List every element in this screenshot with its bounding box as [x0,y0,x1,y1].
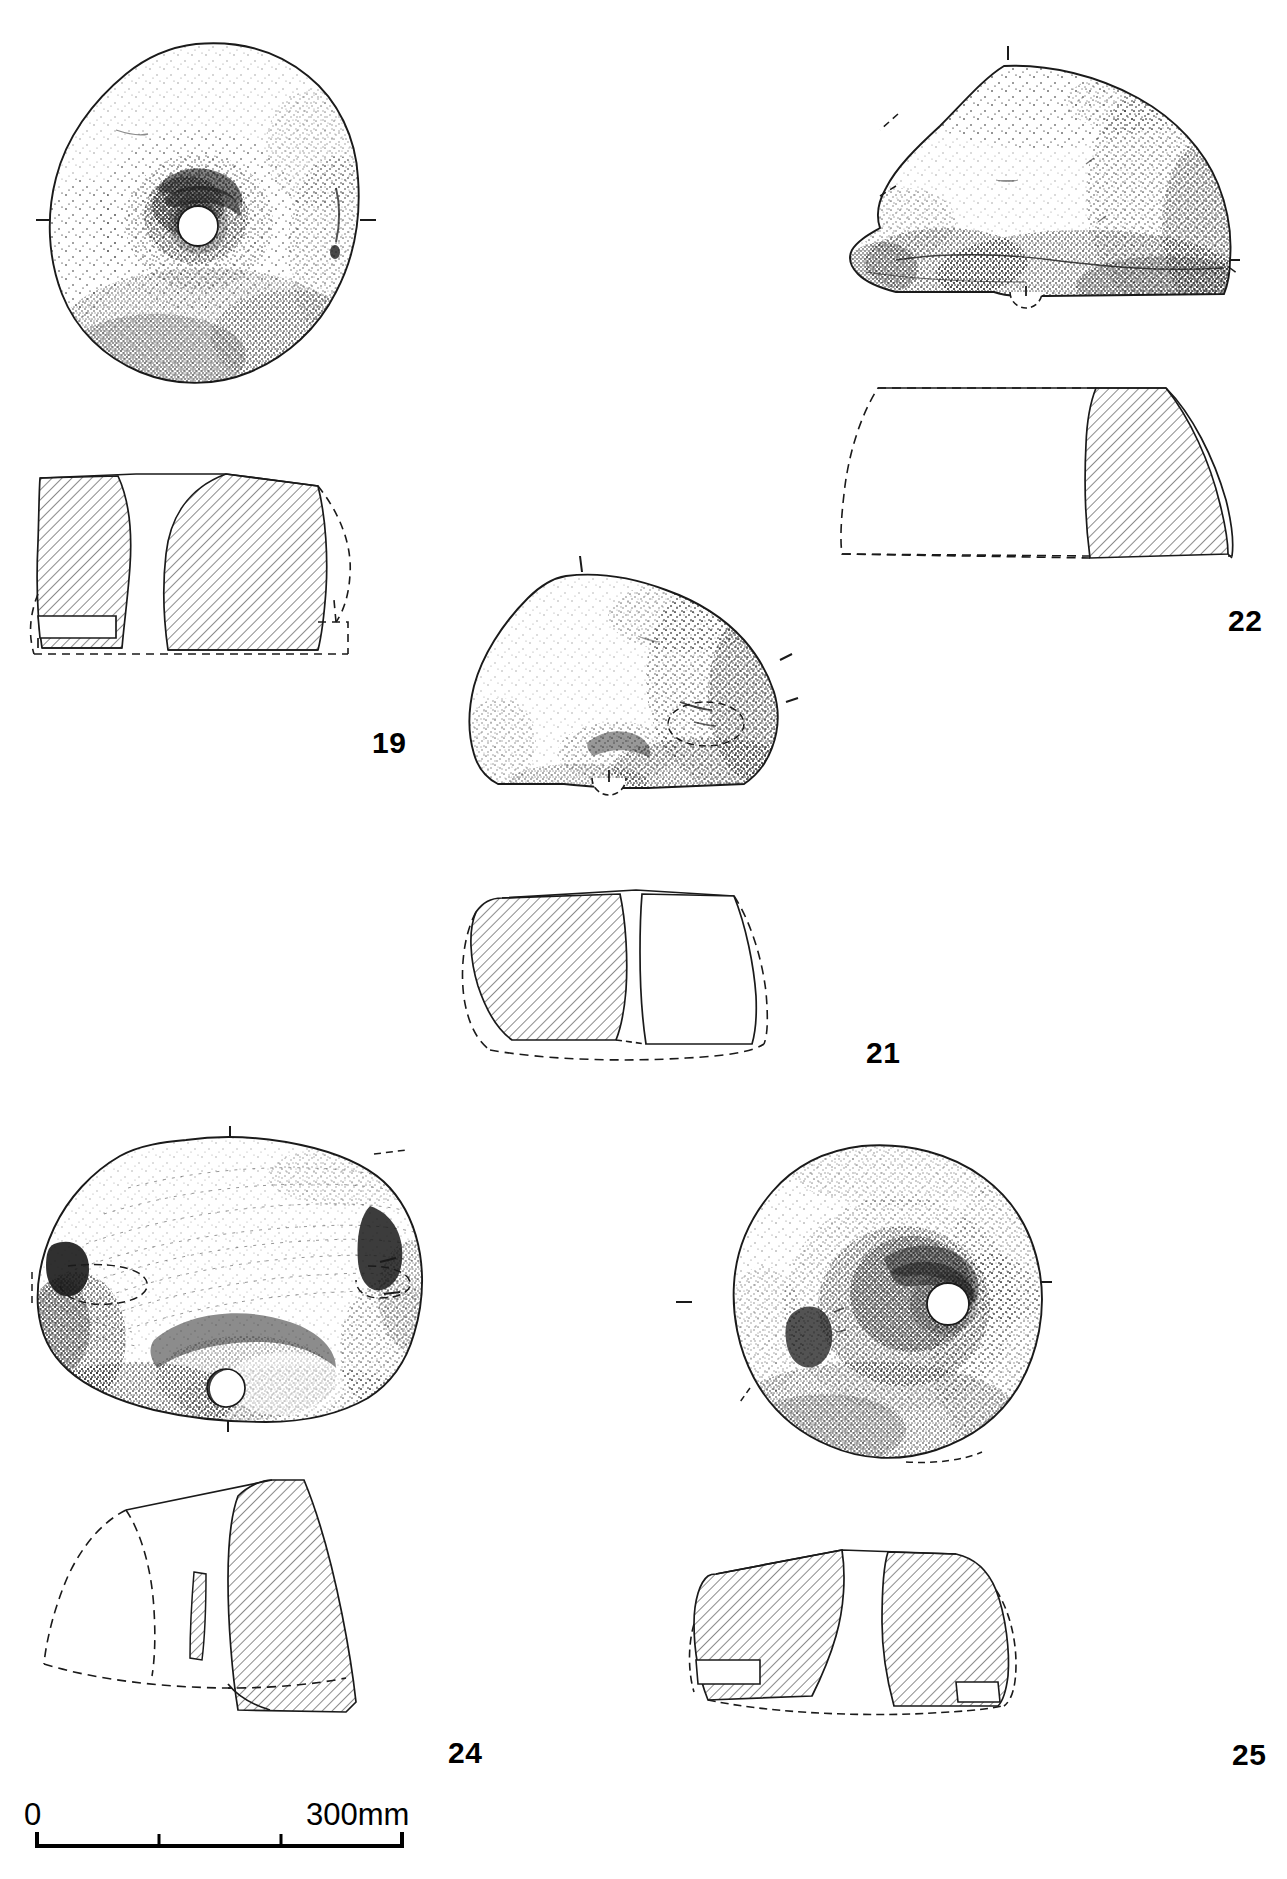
artefact-24-reconstruction-tick-upper-right [374,1150,406,1154]
artefact-25-section-view [656,1524,1056,1744]
artefact-22-plan-view [836,46,1240,316]
artefact-21-plan-view [458,556,798,824]
artefact-25-plan-view [676,1136,1052,1476]
artefact-21-section-block-hatched [471,894,627,1040]
artefact-22-section-block [1085,388,1228,558]
artefact-19-central-perforation [178,206,218,246]
artefact-22-reconstruction-tick-right [1230,268,1238,274]
artefact-19-catalogue-label: 19 [372,728,406,758]
artefact-22-section-view [818,372,1242,608]
artefact-24-socket-wall-section [190,1572,206,1660]
artefact-24-reconstruction-inner [126,1510,155,1676]
scale-bar: 0 300mm [0,1800,430,1860]
artefact-24-section-block [228,1480,356,1712]
scale-start-label: 0 [24,1799,41,1830]
artefact-24-handle-socket-left [46,1242,89,1296]
artefact-24-section-view [26,1462,436,1744]
artefact-25-handle-socket-rebate-right [956,1682,1000,1702]
artefact-22-catalogue-label: 22 [1228,606,1262,636]
artefact-21-section-view [446,872,846,1068]
artefact-25-handle-socket-rebate-left [696,1660,760,1684]
artefact-22-reconstruction-baseline [842,554,1090,556]
artefact-19-section-block-right [164,474,327,650]
artefact-19-handle-socket-rebate [38,616,116,638]
scale-end-label: 300mm [306,1799,409,1830]
artefact-22-reconstruction-tick-upper-left [880,114,898,130]
artefact-21-catalogue-label: 21 [866,1038,900,1068]
artefact-19-section-view [18,462,378,732]
illustration-plate: 19 [0,0,1287,1879]
artefact-25-catalogue-label: 25 [1232,1740,1266,1770]
orientation-tick-upper-right [780,654,792,660]
artefact-19-plan-view [36,38,376,390]
artefact-25-central-perforation [927,1283,969,1325]
artefact-24-plan-view [18,1126,442,1434]
artefact-25-reconstruction-left [690,1624,695,1692]
artefact-22-reconstruction-profile [841,388,1096,558]
artefact-21-section-block-open [640,894,756,1044]
artefact-24-catalogue-label: 24 [448,1738,482,1768]
artefact-24-reconstruction-left [44,1510,126,1664]
artefact-21-reconstruction-baseline [490,1044,764,1060]
artefact-25-reconstruction-tick-lower-left [740,1388,750,1402]
orientation-tick-top [580,556,582,572]
orientation-tick-right [786,698,798,702]
